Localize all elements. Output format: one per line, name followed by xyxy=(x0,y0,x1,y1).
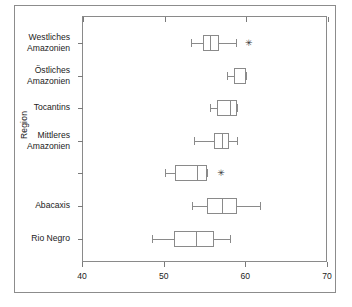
median-0 xyxy=(210,35,211,51)
x-tick-label-50: 50 xyxy=(159,271,169,281)
box-2 xyxy=(217,100,237,116)
boxplot-1 xyxy=(83,65,328,87)
category-label-column: Westliches AmazonienÖstliches AmazonienT… xyxy=(0,16,76,262)
cap-low-3 xyxy=(194,137,195,145)
cap-high-1 xyxy=(246,72,247,80)
x-tick-top-40 xyxy=(83,17,84,22)
median-3 xyxy=(222,133,223,149)
whisker-low-6 xyxy=(152,239,175,240)
x-axis: 40506070 xyxy=(82,262,327,290)
cap-low-0 xyxy=(191,39,192,47)
cap-low-2 xyxy=(210,104,211,112)
whisker-low-3 xyxy=(194,141,214,142)
median-4 xyxy=(197,165,198,181)
plot-panel: ✳✳ xyxy=(82,16,327,262)
cap-high-6 xyxy=(230,235,231,243)
category-label-6: Rio Negro xyxy=(31,233,70,244)
x-tick-top-60 xyxy=(246,17,247,22)
x-tick-label-60: 60 xyxy=(241,271,251,281)
median-2 xyxy=(230,100,231,116)
boxplot-4: ✳ xyxy=(83,162,328,184)
whisker-low-5 xyxy=(192,206,207,207)
box-1 xyxy=(234,68,245,84)
x-tick-top-50 xyxy=(165,17,166,22)
cap-high-3 xyxy=(237,137,238,145)
category-label-0: Westliches Amazonien xyxy=(27,32,70,53)
boxplot-6 xyxy=(83,228,328,250)
category-label-1: Östliches Amazonien xyxy=(27,65,70,86)
cap-high-2 xyxy=(237,104,238,112)
box-6 xyxy=(174,231,213,247)
category-label-5: Abacaxis xyxy=(35,200,70,211)
category-label-2: Tocantins xyxy=(34,102,70,113)
x-tick-label-70: 70 xyxy=(322,271,332,281)
outlier-4-0: ✳ xyxy=(217,170,225,176)
x-tick-50 xyxy=(164,262,165,267)
whisker-low-1 xyxy=(227,76,234,77)
x-tick-40 xyxy=(82,262,83,267)
outlier-0-0: ✳ xyxy=(245,40,253,46)
whisker-high-0 xyxy=(219,43,235,44)
cap-low-4 xyxy=(165,169,166,177)
median-6 xyxy=(196,231,197,247)
cap-high-0 xyxy=(236,39,237,47)
whisker-low-0 xyxy=(191,43,203,44)
whisker-high-6 xyxy=(214,239,230,240)
x-tick-60 xyxy=(245,262,246,267)
cap-high-5 xyxy=(260,202,261,210)
boxplot-3 xyxy=(83,130,328,152)
x-tick-top-70 xyxy=(328,17,329,22)
boxplot-2 xyxy=(83,97,328,119)
boxplot-5 xyxy=(83,195,328,217)
cap-low-1 xyxy=(227,72,228,80)
whisker-low-4 xyxy=(165,173,175,174)
x-tick-70 xyxy=(327,262,328,267)
whisker-high-5 xyxy=(237,206,261,207)
box-4 xyxy=(175,165,207,181)
median-1 xyxy=(234,68,235,84)
median-5 xyxy=(222,198,223,214)
x-tick-label-40: 40 xyxy=(77,271,87,281)
whisker-high-3 xyxy=(229,141,237,142)
boxplot-0: ✳ xyxy=(83,32,328,54)
cap-low-5 xyxy=(192,202,193,210)
cap-high-4 xyxy=(207,169,208,177)
category-label-3: Mittleres Amazonien xyxy=(27,130,70,151)
boxplot-figure: Region Westliches AmazonienÖstliches Ama… xyxy=(0,0,352,307)
cap-low-6 xyxy=(152,235,153,243)
